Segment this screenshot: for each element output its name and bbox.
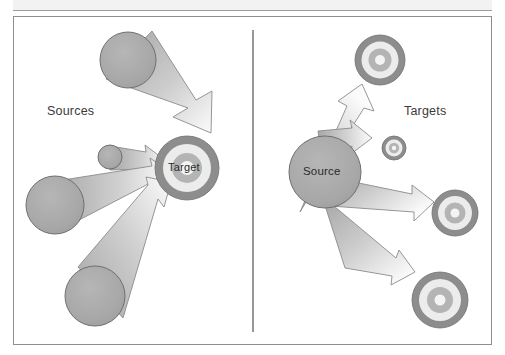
target-hub-label: Target: [168, 161, 200, 173]
figure-frame: [13, 16, 492, 345]
targets-caption: Targets: [404, 104, 446, 118]
figure-stage: Sources Target Source Targets: [0, 0, 505, 355]
source-hub-label: Source: [303, 165, 341, 177]
top-gray-band: [13, 0, 492, 11]
sources-caption: Sources: [47, 104, 94, 118]
